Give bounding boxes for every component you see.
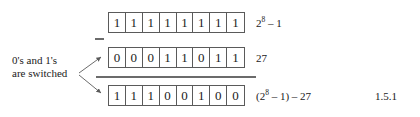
arrow-to-result-row-icon: [79, 75, 101, 93]
bit-cell: 0: [160, 86, 177, 105]
bit-cell: 1: [160, 13, 177, 32]
bit-cell: 0: [210, 86, 227, 105]
bit-row-all-ones: 1 1 1 1 1 1 1 1: [108, 12, 245, 33]
row-label-suffix: 27: [256, 52, 267, 64]
row-label-suffix: – 1: [265, 17, 282, 29]
bit-cell: 0: [177, 86, 194, 105]
row-label-base: (2: [256, 90, 265, 102]
arrow-to-row-27-icon: [79, 57, 101, 73]
row-label-value-27: 27: [256, 53, 267, 64]
bit-cell: 1: [109, 86, 126, 105]
row-label-complement-result: (28 – 1) – 27: [256, 91, 311, 102]
row-label-all-ones: 28 – 1: [256, 18, 282, 29]
row-label-suffix: – 1) – 27: [269, 90, 311, 102]
bit-cell: 1: [210, 48, 227, 67]
bit-cell: 1: [177, 48, 194, 67]
bit-cell: 1: [227, 48, 244, 67]
bit-cell: 1: [143, 86, 160, 105]
bit-cell: 1: [160, 48, 177, 67]
bit-cell: 0: [193, 48, 210, 67]
bit-cell: 0: [126, 48, 143, 67]
bit-cell: 0: [143, 48, 160, 67]
bit-cell: 1: [193, 86, 210, 105]
bit-cell: 1: [177, 13, 194, 32]
bit-cell: 1: [126, 13, 143, 32]
annotation-line-2: are switched: [12, 67, 67, 80]
minus-operator-icon: [95, 38, 104, 40]
bit-cell: 0: [227, 86, 244, 105]
bit-row-complement-result: 1 1 1 0 0 1 0 0: [108, 85, 245, 106]
bit-row-value-27: 0 0 0 1 1 0 1 1: [108, 47, 245, 68]
bit-cell: 0: [109, 48, 126, 67]
bit-cell: 1: [143, 13, 160, 32]
equation-number: 1.5.1: [375, 91, 397, 102]
bit-cell: 1: [109, 13, 126, 32]
bit-cell: 1: [126, 86, 143, 105]
figure-canvas: 1 1 1 1 1 1 1 1 28 – 1 0 0 0 1 1 0 1 1 2…: [0, 0, 420, 117]
summation-rule: [96, 76, 256, 78]
bit-cell: 1: [210, 13, 227, 32]
bit-cell: 1: [193, 13, 210, 32]
bit-cell: 1: [227, 13, 244, 32]
annotation-text: 0's and 1's are switched: [12, 54, 67, 80]
annotation-line-1: 0's and 1's: [12, 54, 67, 67]
